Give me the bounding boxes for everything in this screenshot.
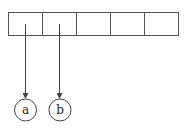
node-a: a [15,99,37,121]
array-cell-2 [77,13,111,36]
array-pointer-diagram: a b [0,0,187,134]
array-cell-4 [145,13,179,36]
node-a-label: a [22,103,29,117]
array-cell-3 [111,13,145,36]
node-b-label: b [56,103,64,117]
array [9,13,179,36]
node-b: b [49,99,71,121]
